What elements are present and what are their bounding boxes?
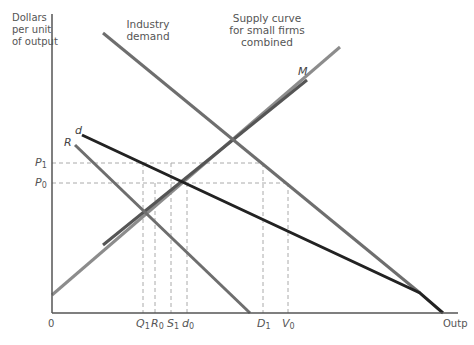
tick-name: R — [151, 317, 159, 330]
tick-sub: 1 — [145, 322, 150, 331]
m-label: M — [298, 66, 308, 78]
tick-sub: 0 — [290, 322, 295, 331]
y-axis-label-line: per unit — [12, 24, 58, 36]
m-curve — [103, 80, 307, 245]
y-axis-label-line: Dollars — [12, 12, 58, 24]
label-line: demand — [118, 30, 178, 42]
d1-tick-label: D1 — [257, 317, 271, 331]
tick-sub: 0 — [42, 181, 47, 190]
label-line: combined — [212, 36, 322, 48]
supply-curve-label: Supply curve for small firms combined — [212, 12, 322, 48]
v0-tick-label: V0 — [282, 317, 295, 331]
tick-sub: 0 — [189, 322, 194, 331]
y-axis-label-line: of output — [12, 36, 58, 48]
diagram-canvas — [0, 0, 474, 345]
r-label: R — [64, 137, 72, 149]
tick-sub: 1 — [265, 322, 270, 331]
label-line: Industry — [118, 18, 178, 30]
tick-name: S — [167, 317, 174, 330]
d-label: d — [75, 125, 82, 137]
q1-tick-label: Q1 — [136, 317, 150, 331]
p0-tick-label: P0 — [35, 176, 47, 190]
tick-name: Q — [136, 317, 145, 330]
tick-name: P — [35, 156, 42, 169]
p1-tick-label: P1 — [35, 156, 47, 170]
r0-tick-label: R0 — [151, 317, 164, 331]
s1-tick-label: S1 — [167, 317, 179, 331]
tick-name: P — [35, 176, 42, 189]
tick-name: V — [282, 317, 290, 330]
y-axis-label: Dollars per unit of output — [12, 12, 58, 48]
industry-demand-label: Industry demand — [118, 18, 178, 42]
tick-sub: 1 — [174, 322, 179, 331]
tick-sub: 0 — [159, 322, 164, 331]
tick-sub: 1 — [42, 161, 47, 170]
r-curve — [75, 145, 250, 313]
label-line: for small firms — [212, 24, 322, 36]
origin-label: 0 — [48, 318, 54, 330]
tick-name: d — [182, 317, 189, 330]
label-line: Supply curve — [212, 12, 322, 24]
d0-tick-label: d0 — [182, 317, 194, 331]
x-axis-label: Outp — [443, 318, 467, 330]
